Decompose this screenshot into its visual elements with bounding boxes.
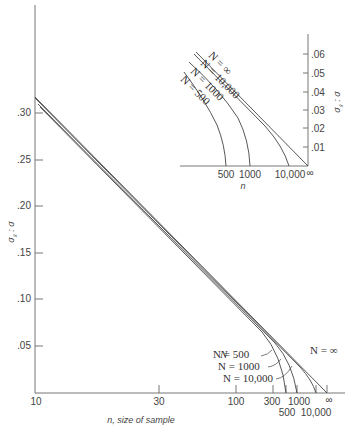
x-tick-label: 10: [30, 396, 42, 407]
y-tick-label: .20: [17, 200, 31, 211]
svg-text:σx̄ : σ: σx̄ : σ: [6, 221, 18, 243]
y-tick-label: .15: [17, 247, 31, 258]
inset-y-axis-title: σx̄ : σ: [332, 91, 344, 113]
label-n-10000: N = 10,000: [223, 372, 273, 384]
chart-canvas: .30 .25 .20 .15 .10 .05 σx̄ : σ 10 30 10…: [0, 0, 355, 431]
label-n-inf: N = ∞: [310, 344, 338, 356]
label-n-1000: N = 1000: [218, 360, 260, 372]
x-tick-label: 300: [264, 396, 281, 407]
inset-y-tick-label: .01: [311, 142, 325, 153]
main-y-ticks: .30 .25 .20 .15 .10 .05: [17, 107, 43, 351]
inset-y-tick-label: .06: [311, 49, 325, 60]
inset-y-tick-label: .05: [311, 68, 325, 79]
inset-x-tick-label: 1000: [239, 169, 262, 180]
label-n-500-text: N = 500: [213, 348, 250, 360]
main-chart: .30 .25 .20 .15 .10 .05 σx̄ : σ 10 30 10…: [6, 5, 345, 425]
inset-y-tick-label: .02: [311, 123, 325, 134]
inset-y-ticks: .06 .05 .04 .03 .02 .01: [303, 49, 325, 153]
curve-n-inf: [35, 97, 327, 393]
main-y-axis-title: σx̄ : σ: [6, 221, 18, 243]
inset-y-tick-label: .03: [311, 105, 325, 116]
y-tick-label: .25: [17, 154, 31, 165]
x-tick-label: 10,000: [301, 407, 332, 418]
inset-curve-labels: N = ∞ N = 10,000 N = 1000 N = 500: [179, 49, 243, 107]
curve-n-1000: [38, 104, 297, 393]
x-tick-label: 1000: [288, 396, 311, 407]
y-tick-label: .30: [17, 107, 31, 118]
inset-x-tick-label: 500: [218, 169, 235, 180]
svg-text:σx̄ : σ: σx̄ : σ: [332, 91, 344, 113]
inset-y-tick-label: .04: [311, 87, 325, 98]
main-curve-labels: NN = 500 N = 500 N = 1000 N = 10,000 N =…: [213, 344, 338, 384]
inset-x-tick-label: ∞: [306, 167, 313, 178]
main-x-axis-title: n, size of sample: [107, 415, 175, 425]
x-tick-label: 500: [279, 407, 296, 418]
main-curves: [35, 97, 327, 393]
y-tick-label: .10: [17, 293, 31, 304]
inset-chart: .06 .05 .04 .03 .02 .01 σx̄ : σ 500 1000…: [179, 34, 344, 191]
main-x-ticks: 10 30 100 300 1000 ∞ 500 10,000: [30, 385, 332, 418]
inset-x-ticks: 500 1000 10,000 ∞: [218, 167, 314, 180]
y-tick-label: .05: [17, 340, 31, 351]
x-tick-label: 100: [228, 396, 245, 407]
x-tick-label: ∞: [325, 394, 332, 405]
x-tick-label: 30: [153, 396, 165, 407]
inset-x-tick-label: 10,000: [275, 169, 306, 180]
inset-x-axis-title: n: [240, 181, 245, 191]
